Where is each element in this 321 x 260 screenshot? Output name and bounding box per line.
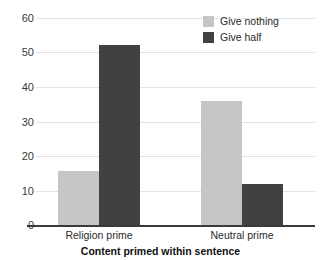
legend-swatch-icon-give-nothing [203, 16, 214, 27]
bar-chart: 60 50 40 30 20 10 0 Religion prime Neutr… [0, 0, 321, 260]
legend-item-give-nothing: Give nothing [203, 15, 279, 27]
ytick-label-20: 20 [4, 151, 34, 162]
legend-swatch-icon-give-half [203, 32, 214, 43]
ytick-label-50: 50 [4, 47, 34, 58]
x-axis-line [27, 225, 315, 227]
x-axis-title: Content primed within sentence [0, 245, 321, 257]
legend-item-give-half: Give half [203, 31, 279, 43]
xtick-label-religion-prime: Religion prime [49, 229, 149, 242]
bar-religion-give-half [99, 45, 140, 226]
bar-neutral-give-nothing [201, 101, 242, 226]
gridline-20 [36, 156, 315, 157]
gridline-30 [36, 122, 315, 123]
x-axis-labels: Religion prime Neutral prime [0, 229, 321, 245]
gridline-40 [36, 87, 315, 88]
ytick-label-40: 40 [4, 82, 34, 93]
xtick-label-neutral-prime: Neutral prime [192, 229, 292, 242]
legend: Give nothing Give half [203, 15, 279, 43]
bar-religion-give-nothing [58, 171, 99, 226]
ytick-label-30: 30 [4, 117, 34, 128]
ytick-label-10: 10 [4, 186, 34, 197]
ytick-label-60: 60 [4, 13, 34, 24]
legend-label-give-half: Give half [220, 31, 261, 43]
gridline-50 [36, 52, 315, 53]
bar-neutral-give-half [242, 184, 283, 226]
legend-label-give-nothing: Give nothing [220, 15, 279, 27]
